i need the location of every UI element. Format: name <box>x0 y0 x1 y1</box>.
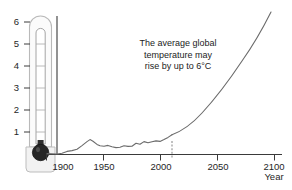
annotation-line-1: The average global <box>126 38 230 50</box>
observed-temperature-line <box>47 135 172 154</box>
thermometer-graphic <box>26 16 55 172</box>
projected-temperature-line <box>172 12 271 135</box>
x-tick-label-1900: 1900 <box>46 162 80 172</box>
climate-temperature-figure: 6 5 4 3 2 1 1900 1950 2000 2050 2100 Yea… <box>0 0 292 190</box>
annotation-line-3: rise by up to 6°C <box>126 61 230 73</box>
x-tick-label-2050: 2050 <box>201 162 235 172</box>
y-tick-label-6: 6 <box>5 17 19 27</box>
y-tick-label-4: 4 <box>5 61 19 71</box>
x-tick-label-1950: 1950 <box>87 162 121 172</box>
y-tick-label-1: 1 <box>5 127 19 137</box>
y-tick-label-2: 2 <box>5 105 19 115</box>
chart-annotation: The average global temperature may rise … <box>126 38 230 73</box>
y-tick-label-3: 3 <box>5 83 19 93</box>
x-axis-title: Year <box>257 172 291 182</box>
x-axis-ticks <box>47 155 275 161</box>
thermometer-bulb-highlight <box>36 147 40 152</box>
thermometer-inner-tube <box>36 28 45 144</box>
annotation-line-2: temperature may <box>126 50 230 62</box>
x-tick-label-2000: 2000 <box>144 162 178 172</box>
y-tick-label-5: 5 <box>5 39 19 49</box>
